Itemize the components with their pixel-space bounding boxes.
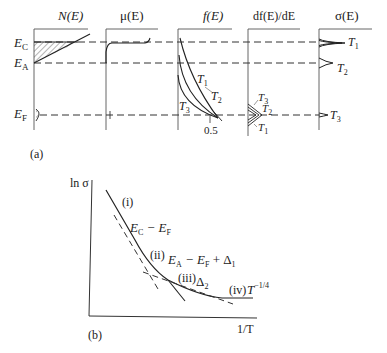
region-iii-formula: Δ2 bbox=[196, 274, 208, 291]
panel-b-axes bbox=[89, 180, 257, 318]
level-ef-label: EF bbox=[13, 106, 27, 123]
fE-label-t3: T3 bbox=[179, 99, 190, 115]
col-title-sigmaE: σ(E) bbox=[335, 8, 359, 23]
nE-fermi-states bbox=[36, 109, 39, 121]
sigmaE-label-t3: T3 bbox=[330, 108, 341, 124]
ylabel-ln-sigma: ln σ bbox=[70, 176, 89, 190]
panel-b-label: (b) bbox=[88, 328, 102, 342]
region-i-id: (i) bbox=[122, 195, 133, 209]
panel-b: ln σ 1/T (b) (i) EC − EF (ii) EA − EF + … bbox=[70, 176, 269, 342]
col-title-dfdE: df(E)/dE bbox=[253, 9, 295, 23]
col-title-nE: N(E) bbox=[57, 8, 83, 23]
fE-label-t1: T1 bbox=[197, 72, 208, 88]
dfdE-label-t1: T1 bbox=[258, 121, 268, 136]
energy-level-lines bbox=[34, 42, 320, 115]
sigmaE-peaks bbox=[319, 39, 345, 117]
region-i-formula: EC − EF bbox=[129, 220, 172, 237]
region-iv-id: (iv) bbox=[229, 283, 246, 297]
xlabel-inv-T: 1/T bbox=[237, 322, 254, 336]
region-iv-formula: T−1/4 bbox=[247, 281, 269, 297]
region-ii-formula: EA − EF + Δ1 bbox=[167, 252, 236, 269]
col-title-muE: μ(E) bbox=[120, 8, 144, 23]
figure-canvas: N(E) μ(E) f(E) df(E)/dE σ(E) EC EA EF bbox=[0, 0, 387, 353]
sigmaE-label-t1: T1 bbox=[348, 35, 359, 51]
panel-a-label: (a) bbox=[30, 147, 43, 161]
sigmaE-label-t2: T2 bbox=[337, 61, 348, 77]
fE-label-t2: T2 bbox=[211, 89, 222, 105]
region-iii-id: (iii) bbox=[178, 271, 196, 285]
level-ec-label: EC bbox=[13, 35, 28, 52]
level-ea-label: EA bbox=[13, 55, 29, 72]
fE-tick-half: 0.5 bbox=[204, 124, 218, 136]
col-title-fE: f(E) bbox=[203, 8, 223, 23]
panel-a: N(E) μ(E) f(E) df(E)/dE σ(E) EC EA EF bbox=[13, 8, 372, 161]
region-ii-id: (ii) bbox=[150, 248, 165, 262]
